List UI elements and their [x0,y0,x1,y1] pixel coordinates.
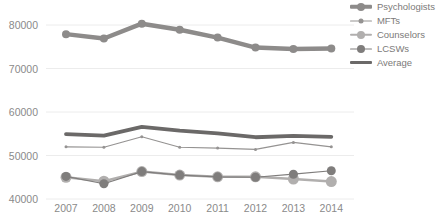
legend-item-counselors: Counselors [350,29,435,40]
data-point-psychologists-2011 [214,34,222,42]
y-axis-tick-label-80000: 80000 [2,19,38,31]
legend-swatch-counselors-icon [350,29,372,40]
x-axis-tick-label-2008: 2008 [92,202,115,214]
legend-swatch-average-icon [350,57,372,68]
legend-swatch-mfts-icon [350,15,372,26]
x-axis-tick-label-2009: 2009 [130,202,153,214]
legend-item-psychologists: Psychologists [350,1,435,12]
x-axis-tick-label-2012: 2012 [244,202,267,214]
data-point-lcsws-2013 [289,170,298,179]
data-point-mfts-2007 [65,145,68,148]
data-point-mfts-2013 [292,141,295,144]
data-point-mfts-2012 [254,148,257,151]
data-point-lcsws-2010 [175,171,184,180]
legend-swatch-psychologists-icon [350,1,372,12]
x-axis-tick-label-2011: 2011 [206,202,229,214]
legend-label-average: Average [377,57,412,68]
data-point-psychologists-2007 [62,30,70,38]
data-point-lcsws-2009 [137,167,146,176]
data-point-psychologists-2013 [289,45,297,53]
data-point-psychologists-2010 [176,26,184,34]
legend-label-mfts: MFTs [377,15,400,26]
x-axis-tick-label-2013: 2013 [282,202,305,214]
salary-trend-line-chart: 8000070000600005000040000 20072008200920… [0,0,438,220]
legend-item-mfts: MFTs [350,15,435,26]
x-axis-tick-label-2010: 2010 [168,202,191,214]
legend-item-lcsws: LCSWs [350,43,435,54]
data-point-psychologists-2009 [138,20,146,28]
legend-swatch-lcsws-icon [350,43,372,54]
y-axis-tick-label-40000: 40000 [2,193,38,205]
data-point-mfts-2010 [178,146,181,149]
data-point-psychologists-2014 [327,44,335,52]
series-line-average [66,127,331,137]
y-axis-tick-label-60000: 60000 [2,106,38,118]
data-point-lcsws-2011 [213,172,222,181]
x-axis-tick-label-2014: 2014 [320,202,343,214]
data-point-lcsws-2007 [62,172,71,181]
y-axis-tick-label-70000: 70000 [2,63,38,75]
data-point-mfts-2011 [216,147,219,150]
legend-label-lcsws: LCSWs [377,43,409,54]
legend-item-average: Average [350,57,435,68]
x-axis-tick-label-2007: 2007 [54,202,77,214]
legend: Psychologists MFTs Counselors LCSWs Aver… [350,1,435,68]
data-point-lcsws-2014 [327,166,336,175]
data-point-lcsws-2008 [99,179,108,188]
data-point-lcsws-2012 [251,173,260,182]
data-point-counselors-2014 [326,176,337,187]
data-point-psychologists-2008 [100,34,108,42]
data-point-mfts-2014 [330,145,333,148]
series-line-mfts [66,137,331,150]
legend-label-psychologists: Psychologists [377,1,435,12]
y-axis-tick-label-50000: 50000 [2,150,38,162]
legend-label-counselors: Counselors [377,29,425,40]
data-point-psychologists-2012 [252,44,260,52]
data-point-mfts-2009 [140,135,143,138]
data-point-mfts-2008 [102,146,105,149]
